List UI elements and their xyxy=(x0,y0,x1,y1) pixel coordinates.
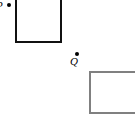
point-label-q: Q xyxy=(70,56,78,67)
figure-canvas: P Q xyxy=(0,0,135,125)
rectangle-upper-left xyxy=(15,0,62,43)
point-marker-p xyxy=(7,3,11,7)
rectangle-lower-right xyxy=(89,71,135,114)
point-label-p: P xyxy=(0,0,3,11)
